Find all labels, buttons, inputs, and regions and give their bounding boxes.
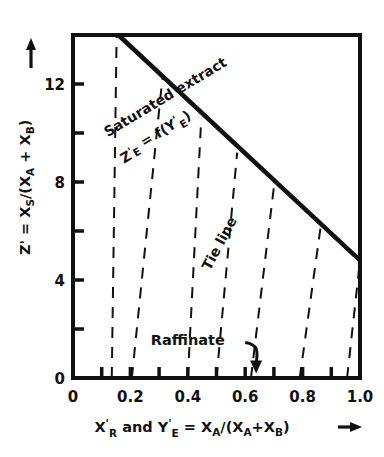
x-title-and: and (122, 419, 153, 435)
x-tick-label: 0 (68, 388, 78, 406)
x-axis-title-text: X'R and Y'E = XA/(XA+XB) (94, 417, 289, 439)
x-title-plus: +X (252, 419, 275, 435)
arrow-up-icon (26, 38, 36, 68)
x-title-b: B (275, 426, 283, 438)
y-title-mid: /(X (17, 176, 33, 199)
y-axis-title: Z' = XS/(XA + XB) (17, 38, 36, 255)
y-tick-label: 4 (55, 272, 65, 290)
raffinate-label: Raffinate (151, 332, 225, 348)
x-title-eq: = X (184, 419, 212, 435)
x-title-y-sub: E (172, 427, 179, 439)
y-title-sub-s: S (24, 199, 36, 207)
x-title-x: X (94, 419, 105, 435)
y-tick-label: 8 (55, 174, 65, 192)
x-tick-label: 1.0 (347, 388, 374, 406)
y-title-main: Z' = X (17, 207, 33, 255)
x-title-y: Y (157, 419, 169, 435)
x-tick-label: 0.2 (117, 388, 144, 406)
x-axis-title: X'R and Y'E = XA/(XA+XB) (94, 417, 362, 439)
y-title-plus: + X (17, 134, 33, 167)
plot-frame (73, 35, 360, 378)
x-title-div: /(X (220, 419, 243, 435)
y-title-close: ) (17, 120, 33, 127)
y-tick-label: 12 (44, 76, 65, 94)
x-tick-label: 0.8 (289, 388, 316, 406)
figure-container: 04812 00.20.40.60.81.0 Saturated extract… (0, 0, 384, 457)
y-axis-tick-labels: 04812 (44, 76, 65, 388)
annotation-raffinate: Raffinate (151, 332, 225, 348)
y-axis-title-text: Z' = XS/(XA + XB) (17, 120, 36, 255)
y-title-sub-b: B (24, 126, 36, 134)
x-tick-label: 0.4 (175, 388, 202, 406)
chart-canvas: 04812 00.20.40.60.81.0 Saturated extract… (0, 0, 384, 457)
x-axis-tick-labels: 00.20.40.60.81.0 (68, 388, 374, 406)
x-title-close: ) (283, 419, 290, 435)
x-title-x-sub: R (109, 427, 117, 439)
x-tick-label: 0.6 (232, 388, 259, 406)
y-tick-label: 0 (55, 370, 65, 388)
arrow-right-icon (338, 422, 362, 432)
